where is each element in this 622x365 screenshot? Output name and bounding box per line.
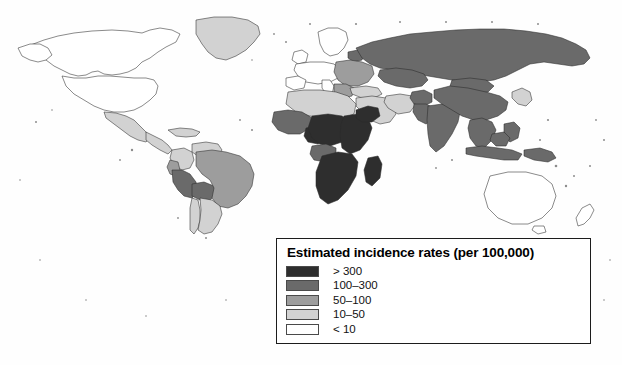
region-new-zealand <box>576 204 594 226</box>
legend-swatch-under-10 <box>286 324 319 335</box>
region-eastern-europe <box>334 60 374 86</box>
legend-swatch-10-50 <box>286 309 319 320</box>
region-united-states <box>62 76 158 112</box>
legend-item: 50–100 <box>286 293 582 307</box>
region-greenland <box>196 17 260 60</box>
world-incidence-map-figure: Estimated incidence rates (per 100,000) … <box>0 0 622 365</box>
region-caribbean <box>168 128 200 137</box>
region-scandinavia <box>318 28 348 56</box>
region-indonesia <box>466 146 522 160</box>
legend-item: 10–50 <box>286 308 582 322</box>
region-southeast-asia <box>468 118 496 148</box>
region-papua-new-guinea <box>524 148 556 162</box>
legend-label-under-10: < 10 <box>333 324 356 335</box>
region-australia <box>484 172 556 224</box>
legend-label-10-50: 10–50 <box>333 309 365 320</box>
region-turkey <box>350 86 382 98</box>
legend-swatch-over-300 <box>286 266 319 277</box>
legend-swatch-50-100 <box>286 295 319 306</box>
legend-item: < 10 <box>286 322 582 336</box>
region-korea-japan <box>512 88 532 106</box>
legend-item: 100–300 <box>286 279 582 293</box>
legend-title: Estimated incidence rates (per 100,000) <box>287 245 582 260</box>
region-british-isles <box>292 50 308 64</box>
legend-label-over-300: > 300 <box>333 266 362 277</box>
legend-swatch-100-300 <box>286 280 319 291</box>
region-central-america <box>146 132 172 154</box>
region-tasmania <box>532 226 546 234</box>
region-madagascar <box>364 156 382 186</box>
legend-item: > 300 <box>286 264 582 278</box>
legend-label-50-100: 50–100 <box>333 295 371 306</box>
map-legend: Estimated incidence rates (per 100,000) … <box>276 238 591 344</box>
legend-label-100-300: 100–300 <box>333 280 378 291</box>
region-southern-africa <box>316 152 358 204</box>
region-mexico <box>104 112 150 142</box>
region-canada <box>28 28 180 76</box>
